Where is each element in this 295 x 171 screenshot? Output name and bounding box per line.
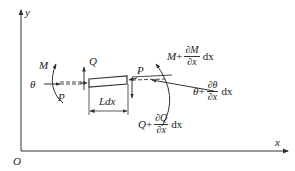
origin-label: O <box>13 156 21 167</box>
shear-numerator: ∂Q <box>154 113 168 125</box>
right-shear-expression: Q + ∂Q ∂x dx <box>138 113 182 135</box>
rotation-numerator: ∂θ <box>207 80 219 92</box>
diagram-graphics <box>0 0 295 171</box>
shear-plus: + <box>146 118 152 130</box>
moment-fraction: ∂M ∂x <box>184 45 199 67</box>
beam-element <box>89 76 127 87</box>
beam-element-diagram: y x O M θ P Q Ldx P M + ∂M ∂x dx θ + ∂θ … <box>0 0 295 171</box>
left-shear-force-label: Q <box>89 56 97 67</box>
moment-base: M <box>167 50 176 62</box>
left-axial-force-label: P <box>58 92 65 103</box>
rotation-differential: dx <box>221 85 232 97</box>
left-rotation-line <box>44 82 87 84</box>
rotation-plus: + <box>198 85 204 97</box>
element-length-label: Ldx <box>99 96 116 107</box>
right-rotation-expression: θ + ∂θ ∂x dx <box>193 80 232 102</box>
rotation-fraction: ∂θ ∂x <box>207 80 219 102</box>
moment-differential: dx <box>203 50 214 62</box>
shear-differential: dx <box>171 118 182 130</box>
moment-plus: + <box>176 50 182 62</box>
right-axial-force-label: P <box>137 65 144 76</box>
rotation-denominator: ∂x <box>207 92 218 103</box>
shear-base: Q <box>138 118 146 130</box>
moment-numerator: ∂M <box>184 45 199 57</box>
moment-denominator: ∂x <box>186 57 197 68</box>
x-axis-label: x <box>275 137 280 148</box>
left-moment-label: M <box>39 60 48 71</box>
y-axis-label: y <box>25 7 30 18</box>
shear-fraction: ∂Q ∂x <box>154 113 168 135</box>
right-moment-expression: M + ∂M ∂x dx <box>167 45 214 67</box>
shear-denominator: ∂x <box>156 125 167 136</box>
left-rotation-label: θ <box>30 79 35 90</box>
